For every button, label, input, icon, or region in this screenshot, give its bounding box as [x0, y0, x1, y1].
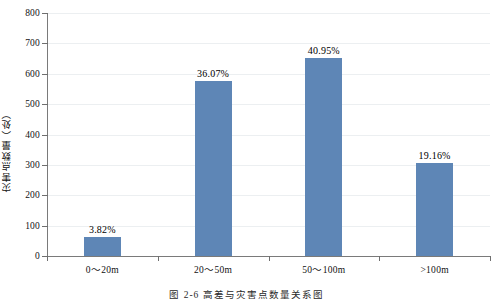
x-axis-tick — [158, 256, 159, 261]
x-axis-tick-label: 0～20m — [62, 264, 142, 276]
gridline — [47, 43, 490, 44]
y-axis-tick — [42, 165, 48, 166]
gridline — [47, 104, 490, 105]
gridline — [47, 13, 490, 14]
x-axis-tick — [47, 256, 48, 261]
gridline — [47, 135, 490, 136]
y-axis-tick-label: 700 — [6, 38, 40, 48]
y-axis-tick — [42, 104, 48, 105]
y-axis-tick-label: 600 — [6, 69, 40, 79]
x-axis-tick — [269, 256, 270, 261]
x-axis-tick-label: 50～100m — [284, 264, 364, 276]
bar-value-label: 36.07% — [168, 68, 258, 79]
y-axis-tick — [42, 74, 48, 75]
bar — [416, 163, 453, 256]
gridline — [47, 74, 490, 75]
bar-value-label: 19.16% — [390, 150, 480, 161]
y-axis-tick — [42, 135, 48, 136]
y-axis-tick-label: 0 — [6, 251, 40, 261]
y-axis-tick-label: 800 — [6, 8, 40, 18]
y-axis-tick — [42, 195, 48, 196]
x-axis-tick-label: 20～50m — [173, 264, 253, 276]
bar — [84, 237, 121, 256]
bar-value-label: 3.82% — [57, 224, 147, 235]
figure-caption: 图 2-6 高差与灾害点数量关系图 — [0, 290, 493, 301]
y-axis-tick — [42, 13, 48, 14]
x-axis-tick-label: >100m — [395, 264, 475, 276]
y-axis-title: 灾害点数量（处） — [2, 108, 16, 192]
plot-area — [47, 13, 490, 256]
x-axis-tick — [379, 256, 380, 261]
y-axis-tick-label: 100 — [6, 221, 40, 231]
y-axis-tick — [42, 43, 48, 44]
x-axis-tick — [490, 256, 491, 261]
bar-value-label: 40.95% — [279, 45, 369, 56]
bar — [195, 81, 232, 256]
bar-chart-figure: 0100200300400500600700800 0～20m20～50m50～… — [0, 0, 493, 301]
bar — [305, 58, 342, 256]
y-axis-tick — [42, 226, 48, 227]
